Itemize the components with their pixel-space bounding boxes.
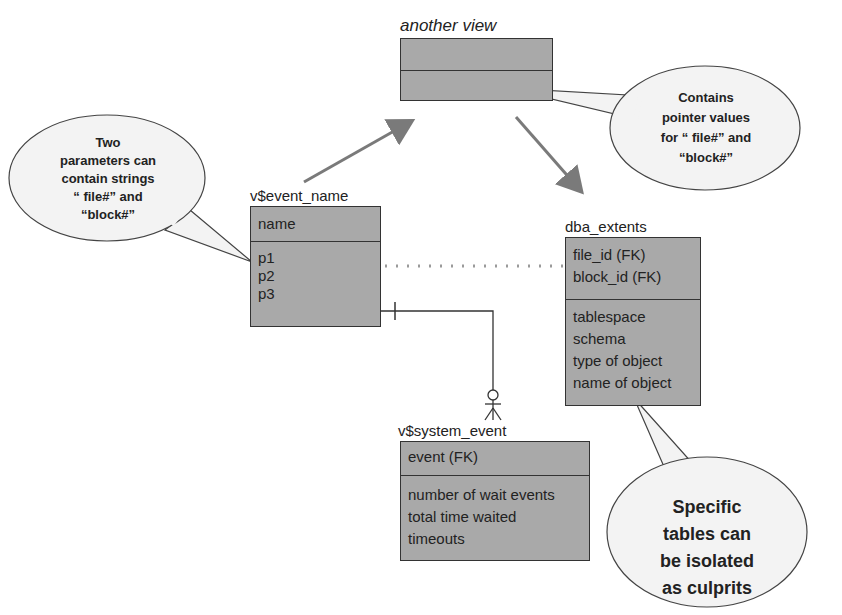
callout-left-text: Two parameters can contain strings “ fil… (22, 134, 194, 224)
attr-row-tablespace: tablespace (573, 306, 693, 328)
callout-bottom-right-line: as culprits (632, 575, 782, 602)
callout-top-right-line: pointer values (625, 108, 787, 128)
callout-left-line: “ file#” and (22, 188, 194, 206)
callout-top-right-line: for “ file#” and (625, 128, 787, 148)
relationship-event-name-to-system-event (380, 302, 501, 420)
attr-row-timeouts: timeouts (408, 528, 582, 550)
entity-system-event-label: v$system_event (398, 422, 506, 439)
callout-top-right-line: “block#” (625, 148, 787, 168)
key-row-file-id: file_id (FK) (573, 244, 693, 266)
entity-another-view[interactable] (400, 38, 553, 101)
entity-dba-extents-key-section: file_id (FK) block_id (FK) (566, 238, 700, 300)
callout-bottom-right-line: Specific (632, 494, 782, 521)
key-row-name: name (258, 214, 373, 234)
entity-dba-extents-label: dba_extents (565, 218, 647, 235)
callout-top-right-text: Contains pointer values for “ file#” and… (625, 88, 787, 168)
attr-row-p2: p2 (258, 267, 373, 285)
attr-row-type-of-object: type of object (573, 350, 693, 372)
attr-row-p3: p3 (258, 285, 373, 303)
callout-bottom-right-line: tables can (632, 521, 782, 548)
key-row-event: event (FK) (408, 447, 582, 467)
arrow-another-view-to-dba-extents (516, 117, 580, 190)
attr-row-schema: schema (573, 328, 693, 350)
callout-left-line: Two (22, 134, 194, 152)
callout-left-line: “block#” (22, 206, 194, 224)
entity-another-view-label: another view (400, 17, 496, 34)
callout-bottom-right-line: be isolated (632, 548, 782, 575)
callout-top-right-line: Contains (625, 88, 787, 108)
entity-system-event-key-section: event (FK) (401, 442, 589, 476)
entity-system-event[interactable]: event (FK) number of wait events total t… (400, 441, 590, 561)
attr-row-total-time-waited: total time waited (408, 506, 582, 528)
entity-system-event-attr-section: number of wait events total time waited … (401, 476, 589, 550)
attr-row-number-of-wait-events: number of wait events (408, 484, 582, 506)
callout-left-line: contain strings (22, 170, 194, 188)
entity-event-name-label: v$event_name (250, 187, 348, 204)
key-row-block-id: block_id (FK) (573, 266, 693, 288)
entity-dba-extents[interactable]: file_id (FK) block_id (FK) tablespace sc… (565, 237, 701, 406)
callout-bottom-right-text: Specific tables can be isolated as culpr… (632, 494, 782, 602)
attr-row-p1: p1 (258, 249, 373, 267)
attr-row-name-of-object: name of object (573, 372, 693, 394)
entity-another-view-key-section (401, 39, 552, 71)
callout-left-line: parameters can (22, 152, 194, 170)
entity-event-name-key-section: name (251, 207, 380, 242)
entity-another-view-attr-section (401, 71, 552, 75)
entity-dba-extents-attr-section: tablespace schema type of object name of… (566, 300, 700, 394)
entity-event-name-attr-section: p1 p2 p3 (251, 242, 380, 303)
arrow-event-name-to-another-view (304, 122, 410, 182)
entity-event-name[interactable]: name p1 p2 p3 (250, 206, 381, 327)
